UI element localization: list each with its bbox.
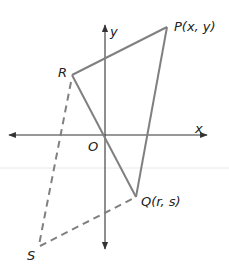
y-axis-label: y [109, 24, 118, 39]
segment-pq [136, 27, 167, 197]
coordinate-diagram: y x O P(x, y) R Q(r, s) S [0, 0, 229, 270]
segment-qr [72, 75, 136, 197]
segment-sq-dashed [40, 198, 134, 246]
segment-rs-dashed [39, 82, 71, 245]
point-q-label: Q(r, s) [141, 194, 181, 209]
point-s-label: S [27, 248, 35, 263]
point-p-label: P(x, y) [174, 19, 216, 34]
segment-rp [72, 27, 167, 75]
x-axis-label: x [194, 121, 203, 136]
origin-label: O [88, 139, 98, 154]
point-r-label: R [58, 65, 67, 80]
